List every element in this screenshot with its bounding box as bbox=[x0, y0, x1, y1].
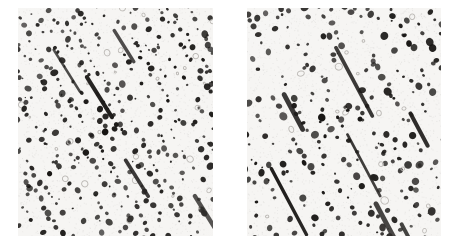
micrograph-canvas-left bbox=[18, 8, 213, 236]
micrograph-panel-left bbox=[18, 8, 213, 236]
figure-root bbox=[0, 0, 455, 243]
micrograph-panel-right bbox=[247, 8, 441, 236]
micrograph-canvas-right bbox=[247, 8, 441, 236]
